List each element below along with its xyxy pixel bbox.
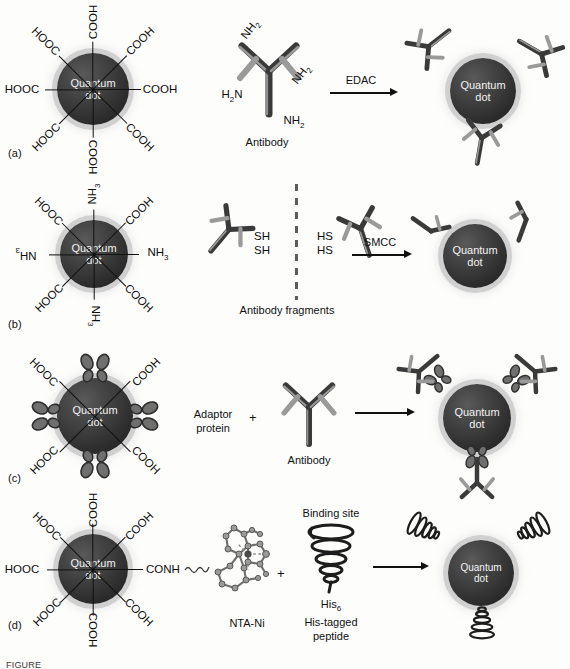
ligand-stem — [92, 570, 93, 616]
ligand-label: NH3 — [86, 305, 101, 326]
quantum-dot-sphere: Quantum dot — [443, 384, 511, 452]
plus-sign: + — [249, 410, 257, 425]
panel-row-d: (d) Quantum dot COOH COOH CONH COOH COOH… — [0, 504, 570, 654]
ligand-stem — [94, 254, 139, 255]
quantum-dot-label-line2: dot — [469, 418, 484, 430]
his-tagged-peptide-helix-icon — [465, 600, 499, 640]
ligand-stem — [93, 255, 94, 300]
ligand-label: NH3 — [86, 183, 101, 204]
ligand-label: HOOC — [5, 563, 40, 575]
antibody-icon — [272, 378, 346, 448]
ligand-stem — [49, 254, 94, 255]
antibody-icon — [499, 336, 565, 402]
ligand-stem — [45, 89, 93, 90]
ligand-label: COOH — [123, 195, 156, 228]
quantum-dot-label-line2: dot — [467, 256, 482, 268]
ligand-label: COOH — [87, 140, 99, 175]
antibody-icon — [453, 456, 501, 502]
thiol-label: HS — [317, 230, 333, 242]
ligand-label: HOOC — [30, 25, 63, 58]
ligand-label: COOH — [87, 613, 99, 648]
antibody-fragment-icon — [497, 196, 553, 251]
amine-label: H2N — [221, 88, 242, 103]
figure-canvas: (a) Quantum dot COOH COOH COOH COOH COOH… — [0, 0, 570, 669]
nta-ni-caption: NTA-Ni — [229, 617, 264, 629]
his-tagged-peptide-helix-icon — [401, 506, 452, 555]
ligand-label: HOOC — [5, 83, 40, 95]
his6-label: His6 — [321, 598, 341, 613]
thiol-label: SH — [254, 244, 270, 256]
ligand-label: HOOC — [31, 596, 64, 629]
antibody-fragments-caption: Antibody fragments — [240, 304, 335, 316]
arrow-label-edac: EDAC — [346, 74, 377, 86]
quantum-dot-label-line1: Quantum — [460, 562, 501, 573]
antibody-fragment-icon — [327, 199, 397, 268]
peptide-caption-line2: peptide — [313, 630, 349, 642]
panel-row-a: (a) Quantum dot COOH COOH COOH COOH COOH… — [0, 0, 570, 178]
ligand-stem — [92, 524, 93, 570]
ligand-label: COOH — [123, 282, 156, 315]
ligand-label: HOOC — [30, 121, 63, 154]
nta-ni-structure — [208, 524, 286, 602]
thiol-label: HS — [317, 244, 333, 256]
ligand-label: COOH — [130, 444, 163, 477]
ligand-stem — [93, 210, 94, 255]
adaptor-protein-icon — [130, 400, 158, 432]
figure-caption: FIGURE — [6, 660, 41, 669]
quantum-dot-label-line1: Quantum — [452, 244, 497, 256]
ligand-stem — [92, 42, 93, 90]
quantum-dot-label-line1: Quantum — [460, 79, 505, 91]
binding-site-label: Binding site — [303, 507, 360, 519]
arrow-label-smcc: SMCC — [364, 236, 396, 248]
ligand-label: COOH — [123, 596, 156, 629]
ligand-label: HOOC — [28, 444, 61, 477]
divider-dashed — [295, 184, 298, 300]
adaptor-protein-icon — [32, 400, 60, 432]
quantum-dot-label-line2: dot — [474, 573, 488, 584]
quantum-dot-label-line1: Quantum — [454, 406, 499, 418]
ligand-label: COOH — [87, 5, 99, 40]
ligand-label-conh: CONH — [146, 563, 180, 575]
ligand-label: COOH — [130, 356, 163, 389]
adaptor-protein-caption-line2: protein — [182, 422, 244, 435]
antibody-caption: Antibody — [246, 136, 289, 148]
ligand-label: COOH — [87, 493, 99, 528]
ligand-label: HOOC — [33, 282, 66, 315]
panel-label-a: (a) — [8, 147, 22, 159]
ligand-stem — [47, 569, 93, 570]
amine-label: NH2 — [283, 114, 304, 129]
antibody-icon — [389, 336, 455, 402]
adaptor-protein-icon — [79, 450, 111, 478]
ligand-label: NH3 — [147, 246, 168, 261]
panel-row-c: (c) Quantum dot COOH COOH HOOC HOOC — [0, 346, 570, 504]
peptide-caption-line1: His-tagged — [304, 616, 357, 628]
thiol-label: SH — [254, 230, 270, 242]
ligand-label: HOOC — [33, 195, 66, 228]
ligand-label: COOH — [123, 510, 156, 543]
ligand-label: NH3 — [15, 246, 36, 261]
ligand-label: HOOC — [28, 356, 61, 389]
ligand-label: COOH — [124, 121, 157, 154]
adaptor-protein-icon — [79, 354, 111, 382]
his-tagged-peptide-helix-icon — [504, 506, 555, 555]
panel-row-b: (b) Quantum dot NH3 COOH NH3 COOH NH3 HO… — [0, 178, 570, 346]
ligand-stem — [93, 89, 141, 90]
antibody-icon — [504, 17, 570, 86]
antibody-icon — [397, 9, 467, 80]
antibody-icon — [451, 114, 511, 170]
ligand-stem — [92, 90, 93, 138]
quantum-dot-sphere: Quantum dot — [448, 540, 514, 606]
panel-label-c: (c) — [8, 472, 21, 484]
ligand-label: HOOC — [31, 510, 64, 543]
adaptor-protein-caption-line1: Adaptor — [182, 408, 244, 421]
ligand-stem — [93, 569, 143, 570]
panel-label-b: (b) — [8, 318, 22, 330]
ligand-label: COOH — [124, 25, 157, 58]
ligand-label: COOH — [143, 83, 178, 95]
his-tagged-peptide-helix-icon — [300, 522, 362, 596]
quantum-dot-label-line2: dot — [475, 91, 490, 103]
antibody-caption: Antibody — [288, 454, 331, 466]
panel-label-d: (d) — [8, 619, 22, 631]
plus-sign: + — [277, 566, 285, 581]
